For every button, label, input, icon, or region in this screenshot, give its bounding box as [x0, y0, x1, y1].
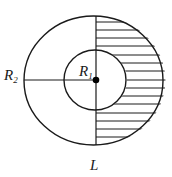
center-point — [93, 77, 100, 84]
label-l: L — [90, 158, 98, 173]
hatch-lines — [96, 22, 170, 137]
label-r2: R2 — [4, 68, 18, 83]
diagram-canvas — [0, 0, 172, 177]
label-r1: R1 — [79, 64, 93, 79]
